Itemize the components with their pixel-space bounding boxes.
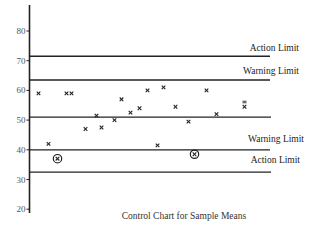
y-tick-label-80: 80 — [17, 26, 27, 36]
y-tick-label-50: 50 — [17, 115, 27, 125]
data-point — [187, 120, 191, 124]
out-of-control-point — [53, 155, 61, 163]
data-point — [138, 106, 142, 110]
lower-warning-limit-label: Warning Limit — [248, 134, 304, 144]
data-point — [174, 105, 178, 109]
data-point — [146, 89, 150, 93]
out-of-control-point — [190, 150, 198, 158]
upper-action-limit-label: Action Limit — [250, 43, 300, 53]
upper-warning-limit-label: Warning Limit — [243, 66, 299, 76]
data-point — [100, 126, 104, 130]
y-tick-label-60: 60 — [17, 85, 27, 95]
chart-title: Control Chart for Sample Means — [122, 211, 247, 221]
data-point — [205, 89, 209, 93]
data-point — [215, 112, 219, 116]
data-point — [120, 98, 124, 102]
y-tick-label-70: 70 — [17, 56, 27, 66]
data-point — [65, 92, 69, 96]
data-point — [37, 92, 41, 96]
data-point — [156, 144, 160, 148]
data-point — [70, 92, 74, 96]
mean-marker — [243, 101, 247, 108]
y-tick-label-40: 40 — [17, 145, 27, 155]
y-tick-label-30: 30 — [17, 175, 27, 185]
data-point — [162, 86, 166, 90]
data-point — [84, 127, 88, 131]
data-point — [47, 142, 51, 146]
data-point — [129, 111, 133, 115]
y-tick-label-20: 20 — [17, 204, 27, 214]
lower-action-limit-label: Action Limit — [251, 155, 301, 165]
data-point — [113, 118, 117, 122]
control-chart: 20304050607080 Action LimitWarning Limit… — [0, 0, 320, 233]
